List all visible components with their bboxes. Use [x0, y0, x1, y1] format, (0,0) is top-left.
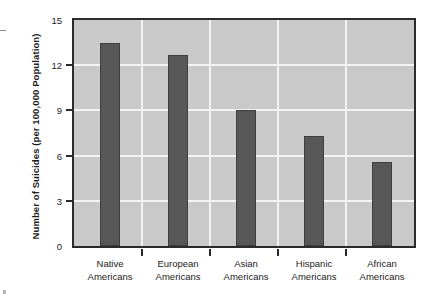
x-tick-mark — [141, 249, 143, 256]
bar-native-americans — [100, 43, 120, 246]
bar-asian-americans — [236, 110, 256, 246]
x-tick-label: AfricanAmericans — [339, 258, 425, 283]
y-tick-label: 12 — [22, 60, 62, 71]
x-tick-mark — [345, 249, 347, 256]
y-tick-label: 0 — [22, 241, 62, 252]
bar-european-americans — [168, 55, 188, 246]
y-axis-title: Number of Suicides (per 100,000 Populati… — [30, 12, 41, 262]
gridline-vertical — [345, 20, 347, 246]
gridline-vertical — [209, 20, 211, 246]
bar-african-americans — [372, 162, 392, 246]
x-tick-label-line: Americans — [339, 271, 425, 284]
x-tick-mark — [209, 249, 211, 256]
x-tick-mark — [277, 249, 279, 256]
x-tick-label-line: African — [339, 258, 425, 271]
y-tick-label: 15 — [22, 15, 62, 26]
gridline-vertical — [141, 20, 143, 246]
bar-chart-figure: Number of Suicides (per 100,000 Populati… — [0, 0, 434, 302]
scan-artifact-bottom-left — [3, 290, 6, 294]
bar-hispanic-americans — [304, 136, 324, 246]
y-tick-label: 6 — [22, 150, 62, 161]
y-tick-label: 9 — [22, 105, 62, 116]
scan-artifact-top-left — [0, 30, 6, 31]
gridline-vertical — [277, 20, 279, 246]
y-tick-label: 3 — [22, 195, 62, 206]
gridline-horizontal — [74, 64, 414, 66]
plot-area — [72, 18, 416, 248]
